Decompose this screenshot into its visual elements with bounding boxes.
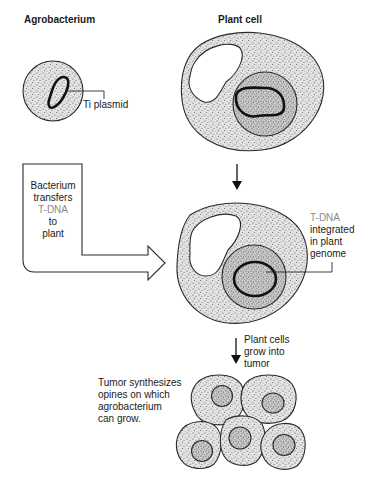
grow-text-2: grow into [244, 346, 285, 357]
integrated-text-2: in plant [310, 236, 342, 247]
transfer-arrow: Bacterium transfers T-DNA to plant [23, 164, 165, 280]
tumor-cell-5 [261, 423, 305, 469]
transfer-text-4: plant [42, 228, 64, 239]
tumor-cell-2 [241, 375, 296, 423]
title-plant-cell: Plant cell [218, 14, 262, 25]
tumor-cell-4 [220, 416, 265, 465]
tumor-cluster [176, 375, 305, 469]
plant-cell-top [181, 32, 323, 150]
tumor-text-3: agrobacterium [98, 401, 162, 412]
transfer-text-tdna: T-DNA [38, 204, 68, 215]
transfer-text-2: transfers [34, 192, 73, 203]
transfer-text-3: to [49, 216, 58, 227]
integrated-text-tdna: T-DNA [310, 212, 340, 223]
grow-text-1: Plant cells [244, 334, 290, 345]
tumor-text-1: Tumor synthesizes [98, 377, 182, 388]
integrated-text-3: genome [310, 248, 347, 259]
title-agrobacterium: Agrobacterium [24, 14, 95, 25]
tumor-text-4: can grow. [98, 413, 141, 424]
tumor-cell-3 [176, 422, 221, 469]
agrobacterium-diagram: Agrobacterium Plant cell Ti plasmid Bact… [0, 0, 368, 482]
tumor-text-2: opines on which [98, 389, 170, 400]
label-ti-plasmid: Ti plasmid [83, 99, 128, 110]
down-arrow-1 [232, 164, 242, 190]
nucleus-top [233, 72, 297, 136]
down-arrow-2: Plant cells grow into tumor [231, 334, 290, 369]
grow-text-3: tumor [244, 358, 270, 369]
tumor-caption: Tumor synthesizes opines on which agroba… [98, 377, 182, 424]
integrated-text-1: integrated [310, 224, 354, 235]
plant-cell-transformed: T-DNA integrated in plant genome [177, 203, 355, 323]
agrobacterium-cell: Ti plasmid [23, 61, 128, 121]
transfer-text-1: Bacterium [30, 180, 75, 191]
